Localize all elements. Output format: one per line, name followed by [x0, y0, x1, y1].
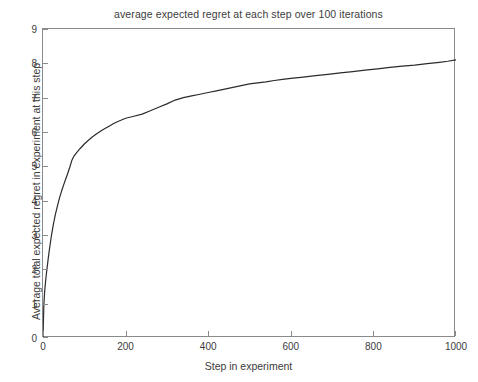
- chart-plot-svg: [43, 29, 456, 338]
- y-tick-label: 8: [31, 58, 37, 69]
- x-tick-label: 200: [117, 341, 134, 352]
- x-tick-label: 800: [365, 341, 382, 352]
- chart-title: average expected regret at each step ove…: [42, 8, 455, 20]
- x-tick-mark: [455, 331, 456, 336]
- figure-canvas: average expected regret at each step ove…: [0, 0, 478, 382]
- x-tick-label: 1000: [445, 341, 467, 352]
- y-tick-mark: [43, 63, 48, 64]
- x-tick-mark: [126, 331, 127, 336]
- y-tick-label: 6: [31, 127, 37, 138]
- y-tick-label: 4: [31, 195, 37, 206]
- x-tick-mark: [373, 331, 374, 336]
- y-tick-label: 7: [31, 92, 37, 103]
- x-tick-label: 400: [200, 341, 217, 352]
- y-tick-label: 5: [31, 161, 37, 172]
- x-tick-mark: [291, 331, 292, 336]
- plot-area: 0123456789 02004006008001000: [42, 28, 455, 337]
- y-axis-label-container: Average total expected regret in experim…: [12, 28, 26, 337]
- y-tick-mark: [43, 29, 48, 30]
- y-tick-label: 1: [31, 298, 37, 309]
- y-tick-mark: [43, 201, 48, 202]
- y-tick-mark: [43, 166, 48, 167]
- x-axis-label: Step in experiment: [42, 360, 455, 372]
- y-tick-label: 0: [31, 333, 37, 344]
- y-tick-mark: [43, 269, 48, 270]
- x-tick-mark: [43, 331, 44, 336]
- y-tick-mark: [43, 132, 48, 133]
- x-tick-label: 600: [282, 341, 299, 352]
- y-tick-mark: [43, 98, 48, 99]
- y-tick-mark: [43, 304, 48, 305]
- x-tick-mark: [208, 331, 209, 336]
- y-tick-mark: [43, 235, 48, 236]
- x-tick-label: 0: [40, 341, 46, 352]
- y-tick-mark: [43, 337, 48, 338]
- y-tick-label: 3: [31, 230, 37, 241]
- y-tick-label: 2: [31, 264, 37, 275]
- y-tick-label: 9: [31, 24, 37, 35]
- regret-line-series: [43, 60, 456, 338]
